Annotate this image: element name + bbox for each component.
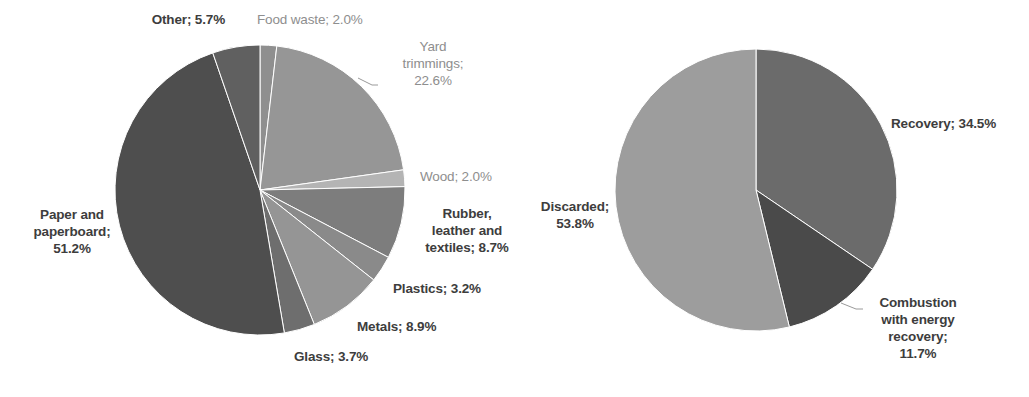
label-plastics: Plastics; 3.2% [393,280,513,297]
label-combustion: Combustion with energy recovery; 11.7% [863,294,973,362]
msw-management-pie-chart: Recovery; 34.5%Discarded; 53.8%Combustio… [520,0,1029,397]
pie-slice-group [615,49,897,331]
label-glass: Glass; 3.7% [294,348,404,365]
label-other: Other; 5.7% [95,11,225,28]
leader-line-group [841,303,863,309]
pie-chart-figure: Other; 5.7%Food waste; 2.0%Yard trimming… [0,0,1029,397]
msw-materials-pie-chart: Other; 5.7%Food waste; 2.0%Yard trimming… [0,0,520,397]
label-metals: Metals; 8.9% [357,318,477,335]
label-yard-trimmings: Yard trimmings; 22.6% [378,38,488,89]
leader-combustion [841,303,863,309]
label-recovery: Recovery; 34.5% [891,115,1029,132]
label-discarded: Discarded; 53.8% [520,198,630,232]
leader-line-group [358,78,378,85]
label-paper-paperboard: Paper and paperboard; 51.2% [16,206,128,257]
leader-yard-trimmings [358,78,378,85]
label-rubber-leather: Rubber, leather and textiles; 8.7% [412,205,522,256]
pie-slice-group [115,45,405,335]
label-food-waste: Food waste; 2.0% [257,11,407,28]
